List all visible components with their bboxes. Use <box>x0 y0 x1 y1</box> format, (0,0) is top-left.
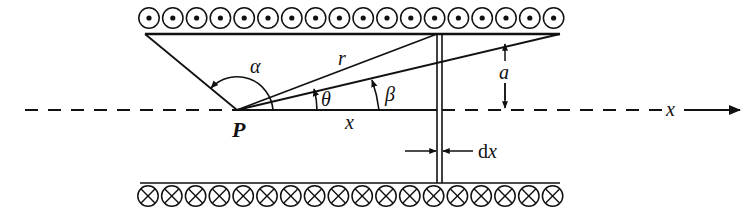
top-wire-row <box>139 8 564 28</box>
wire-out-of-page-icon <box>258 8 278 28</box>
alpha-ray <box>145 34 237 110</box>
solenoid-diagram: x dx a P α r θ β x <box>0 0 745 216</box>
a-label: a <box>499 61 509 83</box>
wire-into-page-icon <box>162 186 182 206</box>
wire-into-page-icon <box>519 186 539 206</box>
wire-into-page-icon <box>138 186 158 206</box>
wire-into-page-icon <box>400 186 420 206</box>
r-label: r <box>338 47 346 69</box>
x-axis-label: x <box>665 98 675 120</box>
theta-label: θ <box>321 88 331 110</box>
wire-into-page-icon <box>257 186 277 206</box>
wire-out-of-page-icon <box>401 8 421 28</box>
wire-out-of-page-icon <box>186 8 206 28</box>
wire-into-page-icon <box>328 186 348 206</box>
x-distance-label: x <box>344 111 354 133</box>
wire-out-of-page-icon <box>234 8 254 28</box>
alpha-label: α <box>250 55 261 77</box>
wire-into-page-icon <box>495 186 515 206</box>
bottom-wire-row <box>138 186 563 206</box>
wire-into-page-icon <box>304 186 324 206</box>
wire-out-of-page-icon <box>520 8 540 28</box>
wire-into-page-icon <box>233 186 253 206</box>
alpha-arc <box>211 77 273 110</box>
wire-into-page-icon <box>447 186 467 206</box>
wire-out-of-page-icon <box>496 8 516 28</box>
wire-into-page-icon <box>423 186 443 206</box>
r-ray <box>237 34 437 110</box>
wire-into-page-icon <box>376 186 396 206</box>
dx-label: dx <box>478 140 497 162</box>
wire-out-of-page-icon <box>472 8 492 28</box>
beta-label: β <box>384 83 395 106</box>
wire-out-of-page-icon <box>353 8 373 28</box>
wire-into-page-icon <box>352 186 372 206</box>
wire-out-of-page-icon <box>282 8 302 28</box>
wire-out-of-page-icon <box>163 8 183 28</box>
wire-out-of-page-icon <box>210 8 230 28</box>
wire-out-of-page-icon <box>305 8 325 28</box>
wire-into-page-icon <box>542 186 562 206</box>
wire-out-of-page-icon <box>329 8 349 28</box>
wire-into-page-icon <box>185 186 205 206</box>
wire-out-of-page-icon <box>543 8 563 28</box>
point-p-label: P <box>231 117 246 142</box>
beta-arc <box>372 80 379 110</box>
wire-into-page-icon <box>209 186 229 206</box>
wire-out-of-page-icon <box>377 8 397 28</box>
wire-out-of-page-icon <box>448 8 468 28</box>
wire-into-page-icon <box>471 186 491 206</box>
wire-into-page-icon <box>281 186 301 206</box>
wire-out-of-page-icon <box>139 8 159 28</box>
wire-out-of-page-icon <box>424 8 444 28</box>
